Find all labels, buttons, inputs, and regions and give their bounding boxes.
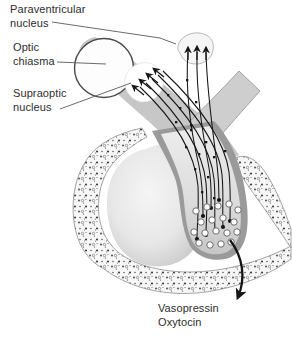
paraventricular-nucleus <box>178 33 214 64</box>
optic-chiasma-label-line2: chiasma <box>13 55 55 69</box>
supraoptic-nucleus-label: Supraoptic nucleus <box>13 87 67 114</box>
optic-chiasma-label-line1: Optic <box>13 41 55 55</box>
supraoptic-label-line1: Supraoptic <box>13 87 67 101</box>
optic-chiasma <box>75 39 134 98</box>
paraventricular-label-line1: Paraventricular <box>10 3 85 17</box>
hormone-label: Vasopressin Oxytocin <box>158 302 219 329</box>
hormone-label-line2: Oxytocin <box>158 316 219 330</box>
paraventricular-label-line2: nucleus <box>10 17 85 31</box>
supraoptic-label-line2: nucleus <box>13 101 67 115</box>
paraventricular-nucleus-label: Paraventricular nucleus <box>10 3 85 30</box>
hypothalamus-pituitary-diagram: Paraventricular nucleus Optic chiasma Su… <box>0 0 292 343</box>
hormone-label-line1: Vasopressin <box>158 302 219 316</box>
optic-chiasma-label: Optic chiasma <box>13 41 55 68</box>
